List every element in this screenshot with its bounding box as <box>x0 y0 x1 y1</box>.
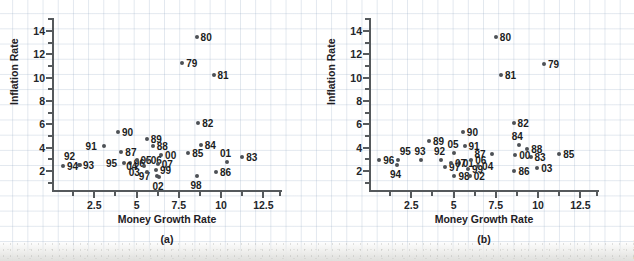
data-point-label: 87 <box>125 147 136 158</box>
data-point <box>494 35 498 39</box>
data-point-label: 94 <box>390 169 401 180</box>
data-point <box>119 150 123 154</box>
x-tick-minor <box>114 192 116 196</box>
x-tick-major <box>262 192 264 198</box>
x-tick-minor <box>516 192 518 196</box>
data-point <box>452 151 456 155</box>
data-point <box>439 158 443 162</box>
x-tick-major <box>495 192 497 198</box>
x-tick-minor <box>474 192 476 196</box>
y-tick-minor <box>48 88 52 90</box>
data-point-label: 81 <box>218 70 229 81</box>
x-tick-label: 12.5 <box>253 199 273 211</box>
y-tick-minor <box>48 112 52 114</box>
data-point-label: 98 <box>190 179 201 190</box>
data-point <box>195 174 199 178</box>
data-point-label: 79 <box>186 57 197 68</box>
data-point <box>240 155 244 159</box>
data-point-label: 82 <box>518 118 529 129</box>
x-axis-title: Money Growth Rate <box>435 213 534 225</box>
y-tick-major <box>46 123 52 125</box>
data-point-label: 82 <box>202 117 213 128</box>
data-point <box>135 158 139 162</box>
data-point <box>186 151 190 155</box>
y-tick-minor <box>365 42 369 44</box>
x-tick-minor <box>72 192 74 196</box>
data-point <box>452 174 456 178</box>
data-point <box>449 161 453 165</box>
data-point <box>157 175 161 179</box>
data-point-label: 79 <box>548 58 559 69</box>
y-tick-label: 6 <box>39 118 45 130</box>
y-tick-label: 14 <box>350 25 362 37</box>
y-tick-major <box>46 77 52 79</box>
data-point-label: 93 <box>83 159 94 170</box>
data-point-label: 91 <box>86 140 97 151</box>
data-point-label: 90 <box>467 127 478 138</box>
data-point <box>512 121 516 125</box>
x-tick-major <box>178 192 180 198</box>
data-point <box>535 166 539 170</box>
y-tick-minor <box>365 182 369 184</box>
data-point-label: 84 <box>512 131 523 142</box>
data-point <box>225 160 229 164</box>
data-point <box>145 170 149 174</box>
data-point-label: 85 <box>192 148 203 159</box>
x-axis-title: Money Growth Rate <box>118 213 217 225</box>
data-point <box>61 164 65 168</box>
data-point <box>377 158 381 162</box>
data-point-label: 02 <box>152 180 163 191</box>
x-tick-major <box>537 192 539 198</box>
data-point <box>557 152 561 156</box>
data-point <box>180 61 184 65</box>
data-point <box>212 73 216 77</box>
y-axis-line <box>369 18 371 192</box>
data-point <box>461 130 465 134</box>
y-tick-major <box>363 123 369 125</box>
data-point-label: 06 <box>475 155 486 166</box>
x-tick-minor <box>279 192 281 196</box>
data-point-label: 85 <box>563 149 574 160</box>
y-tick-label: 4 <box>356 142 362 154</box>
x-tick-label: 12.5 <box>570 199 590 211</box>
x-axis-line <box>369 190 599 192</box>
data-point <box>499 73 503 77</box>
x-tick-minor <box>389 192 391 196</box>
y-tick-minor <box>48 42 52 44</box>
x-tick-major <box>579 192 581 198</box>
y-tick-major <box>363 147 369 149</box>
x-tick-minor <box>199 192 201 196</box>
data-point-label: 07 <box>162 158 173 169</box>
data-point <box>116 130 120 134</box>
y-tick-major <box>46 147 52 149</box>
x-tick-label: 5 <box>134 199 140 211</box>
y-tick-label: 12 <box>350 48 362 60</box>
y-axis-line <box>52 18 54 192</box>
y-tick-minor <box>365 158 369 160</box>
data-point-label: 95 <box>400 146 411 157</box>
data-point-label: 80 <box>500 32 511 43</box>
data-point-label: 95 <box>106 157 117 168</box>
data-point <box>517 143 521 147</box>
x-tick-label: 10 <box>532 199 544 211</box>
y-tick-minor <box>48 65 52 67</box>
data-point <box>443 165 447 169</box>
y-tick-minor <box>365 65 369 67</box>
y-tick-label: 8 <box>39 95 45 107</box>
data-point-label: 90 <box>122 126 133 137</box>
data-point-label: 80 <box>201 32 212 43</box>
y-tick-major <box>363 30 369 32</box>
panel-caption: (a) <box>161 233 174 245</box>
x-tick-minor <box>558 192 560 196</box>
y-axis-title: Inflation Rate <box>8 38 20 105</box>
panel-caption: (b) <box>477 233 490 245</box>
x-tick-label: 7.5 <box>489 199 504 211</box>
y-tick-label: 10 <box>33 72 45 84</box>
scatter-panel-b: 24681012142.557.51012.579808182838485868… <box>317 0 634 261</box>
data-point <box>145 158 149 162</box>
data-point <box>195 35 199 39</box>
x-tick-minor <box>241 192 243 196</box>
x-tick-minor <box>431 192 433 196</box>
x-tick-label: 2.5 <box>87 199 102 211</box>
data-point <box>214 170 218 174</box>
